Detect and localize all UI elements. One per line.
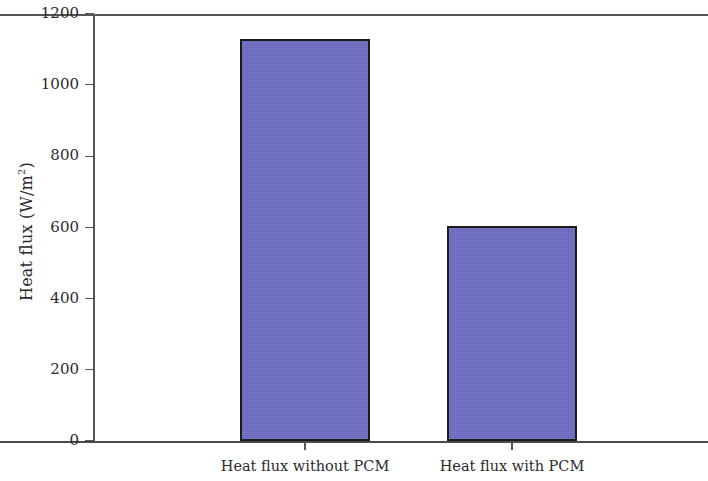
plot-top-rule (0, 14, 708, 16)
x-axis-baseline (0, 441, 708, 443)
y-tick-1200 (85, 13, 94, 14)
bar-1 (447, 226, 577, 441)
y-tick-200 (85, 369, 94, 370)
y-tick-label-600: 600 (9, 220, 79, 235)
x-tick-0 (304, 442, 306, 450)
y-tick-400 (85, 298, 94, 299)
y-axis-line (93, 14, 95, 442)
x-tick-label-1: Heat flux with PCM (397, 458, 627, 474)
y-tick-label-800: 800 (9, 148, 79, 163)
y-axis-title-text: Heat flux (W/m (17, 175, 36, 301)
y-tick-label-200: 200 (9, 362, 79, 377)
y-tick-800 (85, 156, 94, 157)
y-tick-0 (85, 440, 94, 441)
bar-0 (240, 39, 370, 441)
y-tick-600 (85, 227, 94, 228)
y-tick-label-1200: 1200 (9, 6, 79, 21)
x-tick-label-0: Heat flux without PCM (190, 458, 420, 474)
y-axis-title-superscript: 2 (16, 168, 27, 175)
y-tick-label-1000: 1000 (9, 77, 79, 92)
x-tick-1 (511, 442, 513, 450)
y-tick-label-0: 0 (9, 433, 79, 448)
bar-chart-figure: Heat flux (W/m2) 020040060080010001200 H… (0, 0, 708, 481)
y-tick-label-400: 400 (9, 291, 79, 306)
y-tick-1000 (85, 84, 94, 85)
